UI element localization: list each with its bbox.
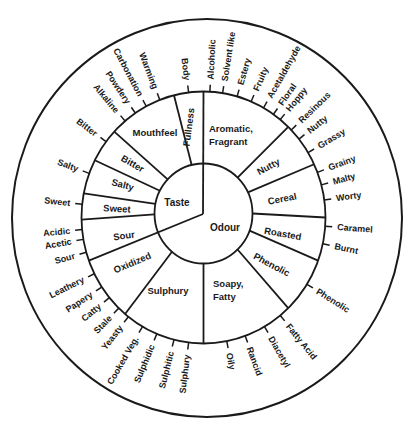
descriptor-label-alcoholic: Alcoholic	[205, 39, 217, 80]
descriptor-tick	[75, 204, 82, 205]
category-label-sulphury: Sulphury	[147, 285, 189, 296]
inner-sector-label-taste: Taste	[164, 197, 190, 208]
category-label-line: Sulphury	[147, 285, 189, 296]
category-label-line: Sweet	[103, 202, 132, 214]
descriptor-tick	[188, 85, 189, 92]
category-label-line: Fatty	[213, 290, 236, 301]
category-label-line: Mouthfeel	[133, 127, 178, 138]
flavour-wheel-svg: TasteOdour Aromatic,FragrantNuttyCerealR…	[0, 0, 412, 433]
category-label-mouthfeel: Mouthfeel	[133, 127, 178, 138]
category-label-sweet: Sweet	[103, 202, 132, 214]
category-label-line: Fragrant	[209, 135, 248, 146]
category-label-line: Aromatic,	[209, 123, 253, 134]
flavour-wheel-diagram: TasteOdour Aromatic,FragrantNuttyCerealR…	[0, 0, 412, 433]
category-label-line: Soapy,	[213, 278, 243, 289]
inner-sector-label-odour: Odour	[210, 222, 240, 233]
descriptor-tick	[188, 343, 189, 350]
descriptor-tick	[75, 230, 82, 231]
category-label-aromatic-fragrant: Aromatic,Fragrant	[209, 123, 253, 147]
taste-odour-divider	[203, 92, 204, 215]
descriptor-tick	[324, 199, 331, 200]
